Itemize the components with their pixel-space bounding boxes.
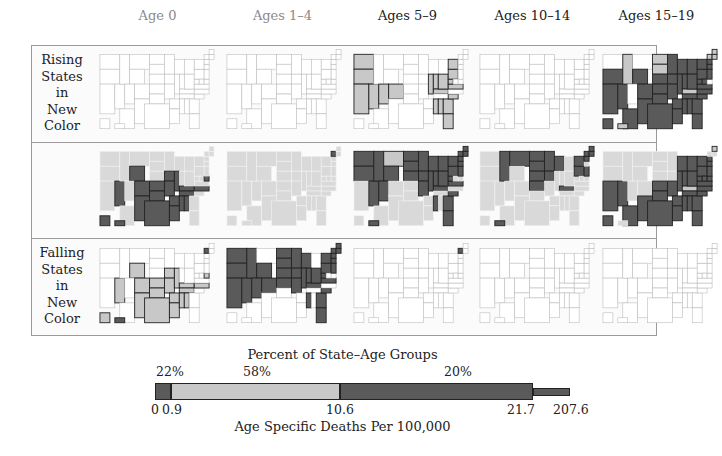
legend-title: Percent of State–Age Groups bbox=[0, 347, 685, 362]
state-sc bbox=[697, 191, 707, 196]
state-ut bbox=[252, 84, 262, 104]
state-ia bbox=[164, 171, 174, 181]
state-oh bbox=[564, 268, 574, 283]
state-or bbox=[100, 263, 120, 278]
state-wv bbox=[574, 176, 579, 181]
state-wa bbox=[603, 151, 623, 166]
state-nc bbox=[697, 89, 712, 94]
state-vt bbox=[584, 54, 589, 59]
state-la bbox=[423, 109, 433, 124]
state-ia bbox=[667, 268, 677, 278]
state-nv bbox=[369, 278, 379, 303]
state-de bbox=[707, 79, 712, 84]
state-al bbox=[687, 196, 692, 211]
state-wy bbox=[633, 166, 648, 181]
state-ne bbox=[150, 268, 165, 278]
state-mn bbox=[291, 151, 301, 171]
state-wi bbox=[554, 253, 564, 268]
state-ca bbox=[100, 278, 115, 308]
state-in bbox=[559, 74, 564, 89]
state-ct bbox=[707, 64, 712, 69]
state-ks bbox=[277, 278, 292, 288]
state-ct bbox=[458, 64, 463, 69]
state-tn bbox=[433, 191, 448, 196]
state-ks bbox=[277, 84, 292, 94]
state-mo bbox=[418, 84, 428, 99]
state-ia bbox=[544, 171, 554, 181]
row-label-falling: Falling States in New Color bbox=[31, 245, 93, 328]
state-wy bbox=[510, 69, 525, 84]
map-rising-0 bbox=[95, 48, 219, 140]
state-ma bbox=[204, 156, 209, 161]
state-in bbox=[306, 171, 311, 186]
state-vt bbox=[707, 54, 712, 59]
state-pa bbox=[574, 263, 584, 273]
state-nh bbox=[336, 248, 341, 253]
state-ct bbox=[331, 64, 336, 69]
state-mo bbox=[418, 181, 428, 196]
state-de bbox=[331, 176, 336, 181]
state-ne bbox=[404, 268, 419, 278]
state-ny bbox=[194, 156, 204, 166]
state-wv bbox=[574, 273, 579, 278]
state-ia bbox=[291, 74, 301, 84]
state-ky bbox=[433, 283, 448, 288]
state-hi bbox=[618, 124, 628, 129]
state-md bbox=[702, 176, 707, 181]
state-mt bbox=[130, 54, 150, 69]
state-tn bbox=[433, 288, 448, 293]
state-hi bbox=[115, 318, 125, 323]
state-wi bbox=[677, 59, 687, 74]
state-nd bbox=[150, 248, 165, 258]
state-ak bbox=[603, 216, 613, 226]
state-oh bbox=[311, 268, 321, 283]
state-ma bbox=[584, 59, 589, 64]
state-ok bbox=[150, 191, 165, 201]
state-mo bbox=[418, 278, 428, 293]
state-ca bbox=[354, 278, 369, 308]
us-map bbox=[598, 242, 722, 334]
state-in bbox=[682, 268, 687, 283]
state-fl bbox=[316, 114, 326, 129]
state-mn bbox=[418, 248, 428, 268]
state-me bbox=[209, 49, 214, 54]
state-in bbox=[682, 171, 687, 186]
state-vt bbox=[707, 151, 712, 156]
state-ak bbox=[354, 216, 364, 226]
state-nv bbox=[369, 181, 379, 206]
us-map bbox=[475, 145, 599, 237]
state-ks bbox=[404, 278, 419, 288]
state-nv bbox=[495, 278, 505, 303]
state-ne bbox=[277, 268, 292, 278]
state-or bbox=[354, 69, 374, 84]
row-label-line: New bbox=[31, 102, 93, 119]
state-mo bbox=[667, 181, 677, 196]
state-id bbox=[623, 151, 633, 181]
state-ia bbox=[291, 268, 301, 278]
state-ca bbox=[603, 84, 618, 114]
state-or bbox=[603, 263, 623, 278]
state-ak bbox=[100, 216, 110, 226]
row-label-line: Rising bbox=[31, 52, 93, 69]
us-map bbox=[598, 48, 722, 140]
state-mn bbox=[418, 151, 428, 171]
state-co bbox=[515, 181, 530, 196]
state-mn bbox=[667, 151, 677, 171]
state-mi bbox=[564, 156, 574, 171]
state-al bbox=[311, 99, 316, 114]
map-all-2 bbox=[349, 145, 473, 237]
state-ok bbox=[404, 94, 419, 104]
state-nc bbox=[448, 89, 463, 94]
state-tx bbox=[648, 104, 673, 129]
state-ok bbox=[277, 288, 292, 298]
state-al bbox=[564, 99, 569, 114]
state-sc bbox=[321, 94, 331, 99]
state-tx bbox=[525, 298, 550, 323]
us-map bbox=[95, 145, 219, 237]
state-ne bbox=[653, 74, 668, 84]
state-co bbox=[638, 84, 653, 99]
state-tx bbox=[648, 201, 673, 226]
state-ne bbox=[150, 171, 165, 181]
state-ny bbox=[194, 59, 204, 69]
state-ks bbox=[653, 84, 668, 94]
